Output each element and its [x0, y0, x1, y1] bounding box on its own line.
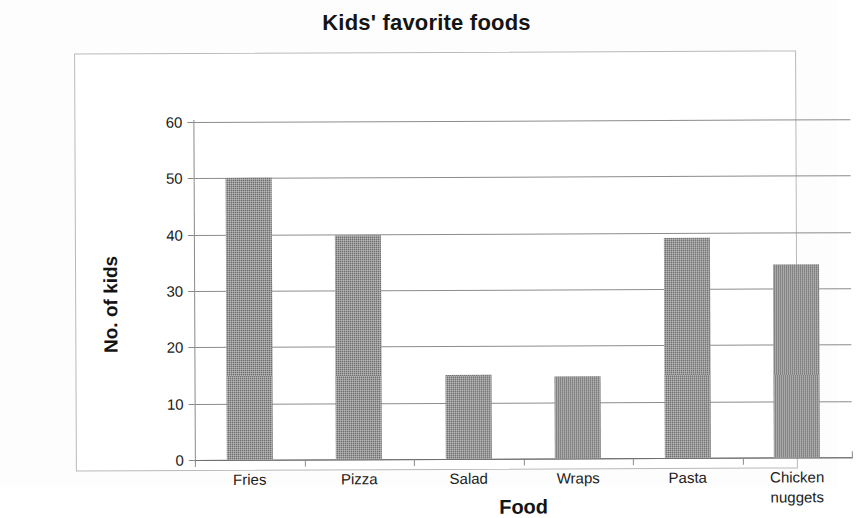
- gridline-40: [194, 232, 851, 236]
- gridline-10: [195, 401, 852, 405]
- x-axis-category-label: Chickennuggets: [737, 467, 857, 508]
- x-axis-category-label: Wraps: [518, 468, 638, 489]
- chart-frame: No. of kids 0102030405060 Food FriesPizz…: [74, 50, 798, 471]
- y-axis-label: 0: [175, 452, 183, 469]
- x-axis-label-line: Pasta: [628, 468, 748, 489]
- y-axis-label: 40: [166, 226, 183, 243]
- x-axis-category-label: Pizza: [299, 469, 419, 490]
- bar: [335, 236, 382, 460]
- gridline-20: [194, 345, 851, 349]
- x-axis-label-line: Pizza: [299, 469, 419, 490]
- y-axis-label: 20: [167, 339, 184, 356]
- x-axis-category-label: Pasta: [628, 468, 748, 489]
- bar: [773, 264, 820, 457]
- y-axis-label: 30: [166, 283, 183, 300]
- x-tick: [523, 459, 524, 466]
- y-tick-30: [188, 291, 194, 292]
- bar: [445, 374, 491, 459]
- y-axis-label: 50: [166, 170, 183, 187]
- chart-title-text: Kids' favorite foods: [322, 10, 530, 36]
- y-tick-40: [188, 235, 194, 236]
- x-axis-category-label: Fries: [190, 470, 310, 491]
- y-axis-label: 10: [167, 395, 184, 412]
- y-axis-title: No. of kids: [100, 204, 125, 404]
- x-tick: [633, 458, 634, 465]
- x-tick: [304, 460, 305, 467]
- x-axis-label-line: Wraps: [518, 468, 638, 489]
- gridline-60: [193, 119, 850, 123]
- x-tick: [414, 459, 415, 466]
- gridline-30: [194, 288, 851, 292]
- bar: [225, 178, 272, 460]
- x-axis-category-label: Salad: [409, 469, 529, 490]
- x-axis-label-line: Chicken: [737, 467, 857, 488]
- y-tick-20: [188, 347, 194, 348]
- plot-area: 0102030405060: [193, 119, 851, 460]
- y-tick-60: [187, 122, 193, 123]
- x-axis-label-line: nuggets: [737, 487, 857, 508]
- x-tick: [742, 458, 743, 465]
- x-axis-label-line: Fries: [190, 470, 310, 491]
- y-tick-10: [189, 404, 195, 405]
- x-tick: [195, 460, 196, 467]
- bar: [664, 238, 711, 458]
- x-axis-end-cap: [852, 451, 853, 458]
- y-tick-50: [188, 178, 194, 179]
- bar: [555, 376, 601, 458]
- chart-title: Kids' favorite foods: [0, 10, 837, 36]
- y-axis-label: 60: [166, 114, 183, 131]
- x-axis-label-line: Salad: [409, 469, 529, 490]
- gridline-50: [194, 176, 851, 180]
